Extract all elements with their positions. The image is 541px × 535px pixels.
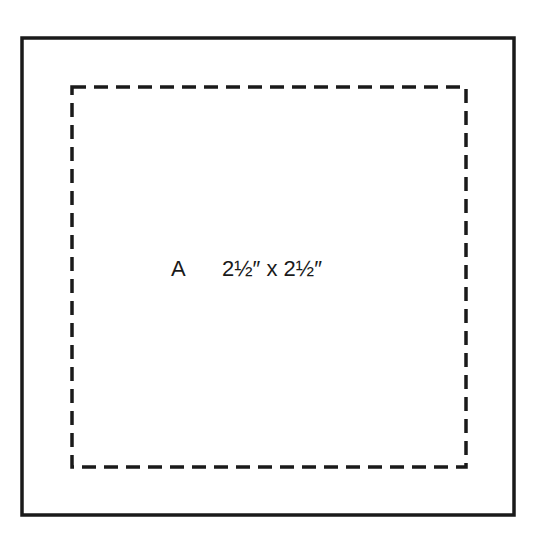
dimensions-label: 2½″ x 2½″ (222, 256, 322, 282)
piece-label: A (171, 256, 186, 282)
